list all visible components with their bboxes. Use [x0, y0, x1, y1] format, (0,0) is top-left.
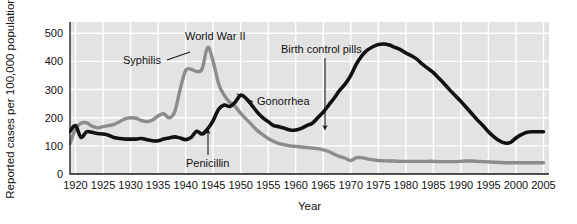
y-tick-label-400: 400 [45, 55, 63, 67]
x-tick-label-1960: 1960 [283, 179, 307, 191]
x-tick-label-1940: 1940 [173, 179, 197, 191]
chart-figure: 1920192519301935194019451950195519601965… [0, 0, 577, 224]
x-tick-label-1920: 1920 [63, 179, 87, 191]
x-tick-label-1965: 1965 [311, 179, 335, 191]
x-tick-label-2000: 2000 [504, 179, 528, 191]
x-tick-label-1990: 1990 [449, 179, 473, 191]
x-tick-label-1930: 1930 [118, 179, 142, 191]
y-axis-tick-labels: 0100200300400500 [45, 27, 63, 180]
x-tick-label-1950: 1950 [228, 179, 252, 191]
birth-control-pills-label-text: Birth control pills [281, 43, 362, 55]
x-tick-label-1980: 1980 [394, 179, 418, 191]
x-tick-label-1925: 1925 [91, 179, 115, 191]
x-tick-label-1935: 1935 [146, 179, 170, 191]
y-tick-label-500: 500 [45, 27, 63, 39]
x-tick-label-1955: 1955 [256, 179, 280, 191]
x-tick-label-1975: 1975 [366, 179, 390, 191]
y-tick-label-200: 200 [45, 112, 63, 124]
y-axis-title: Reported cases per 100,000 population [4, 0, 16, 199]
x-tick-label-2005: 2005 [531, 179, 555, 191]
x-tick-label-1945: 1945 [201, 179, 225, 191]
annotation-world-war-ii-label: World War II [185, 30, 246, 42]
x-axis-title: Year [298, 200, 321, 212]
x-tick-label-1995: 1995 [476, 179, 500, 191]
x-tick-label-1985: 1985 [421, 179, 445, 191]
y-tick-label-300: 300 [45, 84, 63, 96]
x-tick-label-1970: 1970 [339, 179, 363, 191]
x-axis-tick-labels: 1920192519301935194019451950195519601965… [63, 179, 555, 191]
world-war-ii-label-text: World War II [185, 30, 246, 42]
y-tick-label-100: 100 [45, 140, 63, 152]
std-rates-line-chart: 1920192519301935194019451950195519601965… [0, 0, 577, 224]
penicillin-label-text: Penicillin [186, 157, 229, 169]
syphilis-label-text: Syphilis [123, 54, 161, 66]
gonorrhea-label-text: Gonorrhea [257, 95, 310, 107]
y-tick-label-0: 0 [57, 168, 63, 180]
